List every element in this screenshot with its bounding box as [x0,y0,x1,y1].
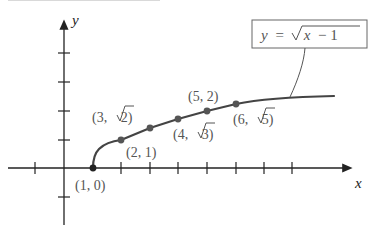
label-5-2: (5, 2) [188,89,219,105]
x-axis-label: x [354,175,362,191]
label-4-sqrt3: (4, 3) [173,123,215,143]
graph: x y (1, 0) (2, 1) (3, 2) (4, 3) (5, 2) [0,0,371,230]
svg-text:(3, 2): (3, 2) [92,110,133,126]
x-axis: x [8,162,362,191]
equation-callout: y = x − 1 [252,20,367,97]
point-4-sqrt3 [175,116,182,123]
label-3-sqrt2: (3, 2) [92,106,134,126]
data-points [90,101,240,172]
point-5-2 [204,108,211,115]
point-6-sqrt5 [233,101,240,108]
label-2-1: (2, 1) [126,145,157,161]
label-1-0: (1, 0) [75,178,106,194]
svg-text:(6, 5): (6, 5) [233,112,274,128]
point-2-1 [118,137,125,144]
y-axis-label: y [70,12,79,28]
label-6-sqrt5: (6, 5) [233,108,275,128]
y-axis: y [58,12,79,225]
point-1-0 [90,165,97,172]
svg-text:(4, 3): (4, 3) [173,127,214,143]
point-3-sqrt2 [147,125,154,132]
